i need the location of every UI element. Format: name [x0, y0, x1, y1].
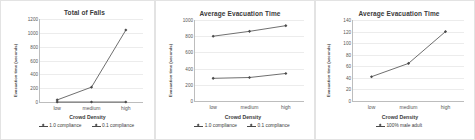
y-axis-tick: 140 — [343, 18, 351, 23]
plot-frame: 020040060080010001200lowmediumhigh — [39, 19, 143, 103]
chart-title: Average Evacuation Time — [166, 10, 314, 17]
data-point-marker — [124, 100, 127, 103]
legend: 1.0 compliance0.1 compliance — [19, 123, 154, 128]
legend-label: 1.0 compliance — [205, 123, 237, 128]
series-group — [195, 20, 304, 101]
chart-title: Average Evacuation Time — [324, 10, 474, 17]
legend-marker-icon — [247, 124, 256, 128]
chart-title: Total of Falls — [15, 9, 154, 16]
data-point-marker — [212, 35, 215, 38]
y-axis-tick: 200 — [30, 86, 38, 91]
y-axis-tick: 600 — [30, 58, 38, 63]
data-point-marker — [248, 30, 251, 33]
legend: 1.0 compliance0.1 compliance — [170, 123, 314, 128]
legend-item: 100% male adult — [376, 123, 422, 128]
y-axis-label: Evacuation time (seconds) — [168, 44, 173, 97]
y-axis-tick: 100 — [343, 41, 351, 46]
data-point-marker — [90, 100, 93, 103]
y-axis-label: Evacuation time (seconds) — [13, 44, 18, 97]
y-axis-tick: 20 — [346, 87, 351, 92]
y-axis-tick: 800 — [30, 44, 38, 49]
legend-item: 1.0 compliance — [194, 123, 237, 128]
series-line — [372, 32, 446, 77]
y-axis-tick: 80 — [346, 52, 351, 57]
legend-item: 1.0 compliance — [39, 123, 82, 128]
legend-label: 100% male adult — [386, 123, 422, 128]
x-axis-label: Crowd Density — [21, 114, 154, 120]
figure-three-panel-charts: Total of Falls Evacuation time (seconds)… — [0, 0, 475, 140]
y-axis-tick: 60 — [346, 64, 351, 69]
legend: 100% male adult — [324, 123, 474, 128]
y-axis-tick: 600 — [185, 50, 193, 55]
chart-panel-total-of-falls: Total of Falls Evacuation time (seconds)… — [0, 0, 155, 140]
plot-frame: 020406080100120140lowmediumhigh — [352, 20, 464, 102]
y-axis-tick: 400 — [30, 72, 38, 77]
legend-marker-icon — [194, 124, 203, 128]
x-axis-tick: medium — [83, 105, 101, 111]
x-axis-tick: high — [441, 104, 450, 110]
legend-label: 0.1 compliance — [102, 123, 134, 128]
data-point-marker — [248, 76, 251, 79]
legend-marker-icon — [92, 124, 101, 128]
x-axis-tick: low — [368, 104, 376, 110]
data-point-marker — [370, 75, 373, 78]
y-axis-tick: 800 — [185, 34, 193, 39]
plot-area: 020040060080010001200lowmediumhigh — [39, 19, 143, 103]
y-axis-tick: 1000 — [183, 18, 193, 23]
series-line — [57, 30, 126, 100]
legend-item: 0.1 compliance — [92, 123, 135, 128]
x-axis-tick: medium — [400, 104, 418, 110]
y-axis-tick: 120 — [343, 29, 351, 34]
data-point-marker — [284, 72, 287, 75]
legend-marker-icon — [39, 124, 48, 128]
x-axis-tick: low — [209, 104, 217, 110]
y-axis-tick: 0 — [35, 100, 38, 105]
y-axis-label: Evacuation time (seconds) — [326, 44, 331, 97]
plot-area: 02004006008001000lowmediumhigh — [194, 20, 304, 102]
x-axis-label: Crowd Density — [172, 114, 314, 120]
y-axis-tick: 1200 — [28, 17, 38, 22]
y-axis-tick: 40 — [346, 75, 351, 80]
chart-panel-average-evacuation-time-male-adult: Average Evacuation Time Evacuation time … — [315, 0, 475, 140]
legend-label: 0.1 compliance — [258, 123, 290, 128]
plot-frame: 02004006008001000lowmediumhigh — [194, 20, 304, 102]
series-group — [40, 19, 143, 102]
x-axis-tick: low — [53, 105, 61, 111]
y-axis-tick: 200 — [185, 82, 193, 87]
data-point-marker — [56, 98, 59, 101]
x-axis-tick: high — [281, 104, 290, 110]
series-group — [353, 20, 464, 101]
y-axis-tick: 1000 — [28, 30, 38, 35]
legend-marker-icon — [376, 124, 385, 128]
legend-label: 1.0 compliance — [49, 123, 81, 128]
chart-panel-average-evacuation-time-compliance: Average Evacuation Time Evacuation time … — [155, 0, 315, 140]
plot-area: 020406080100120140lowmediumhigh — [352, 20, 464, 102]
x-axis-tick: high — [121, 105, 130, 111]
legend-item: 0.1 compliance — [247, 123, 290, 128]
y-axis-tick: 400 — [185, 66, 193, 71]
x-axis-tick: medium — [241, 104, 259, 110]
y-axis-tick: 0 — [190, 99, 193, 104]
data-point-marker — [284, 24, 287, 27]
y-axis-tick: 0 — [348, 99, 351, 104]
data-point-marker — [212, 77, 215, 80]
x-axis-label: Crowd Density — [326, 114, 474, 120]
